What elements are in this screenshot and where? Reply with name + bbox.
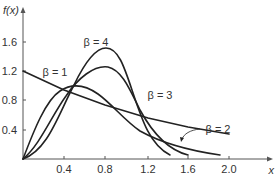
label-beta-2: β = 2 — [206, 123, 231, 135]
curve-beta-2 — [23, 86, 220, 159]
curves — [23, 48, 229, 159]
y-tick-label: 0.8 — [2, 94, 17, 106]
label-beta-1: β = 1 — [43, 66, 68, 78]
axes — [21, 7, 274, 162]
label-beta-2-arrowhead — [180, 137, 184, 142]
x-tick-label: 2.0 — [221, 163, 236, 175]
chart: 0.4 0.8 1.2 1.6 0.4 0.8 1.2 1.6 2.0 f(x)… — [0, 0, 280, 181]
curve-beta-4 — [23, 48, 170, 159]
x-tick-label: 1.2 — [140, 163, 155, 175]
x-tick-labels: 0.4 0.8 1.2 1.6 2.0 — [56, 163, 236, 175]
label-beta-2-leader — [182, 129, 200, 139]
y-tick-label: 1.6 — [2, 36, 17, 48]
y-axis-arrow — [21, 7, 26, 13]
x-tick-label: 0.4 — [56, 163, 71, 175]
x-axis-title: x — [268, 164, 275, 176]
y-tick-labels: 0.4 0.8 1.2 1.6 — [2, 36, 17, 136]
curve-beta-3 — [23, 67, 188, 159]
x-axis-arrow — [267, 157, 273, 162]
label-beta-3: β = 3 — [148, 89, 173, 101]
x-tick-label: 0.8 — [97, 163, 112, 175]
label-beta-4: β = 4 — [84, 36, 109, 48]
y-tick-label: 0.4 — [2, 124, 17, 136]
y-axis-title: f(x) — [3, 4, 19, 16]
x-tick-label: 1.6 — [180, 163, 195, 175]
y-tick-label: 1.2 — [2, 65, 17, 77]
